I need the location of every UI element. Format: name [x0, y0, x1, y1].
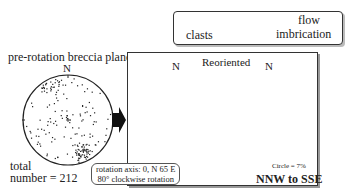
north-label-rose: N — [265, 60, 273, 72]
total-number: number = 212 — [10, 171, 77, 186]
number-label: number = — [10, 171, 59, 185]
transform-arrow-icon — [112, 107, 126, 133]
legend-clasts-label: clasts — [186, 28, 213, 43]
reoriented-title: Reoriented — [202, 56, 250, 68]
north-label-left: N — [63, 62, 71, 74]
rotation-angle-text: 80° clockwise rotation — [96, 174, 175, 184]
north-label-stereonet: N — [172, 60, 180, 72]
total-label: total — [10, 161, 31, 171]
pre-rotation-stereonet — [22, 75, 113, 165]
rotation-info-box: rotation axis: 0, N 65 E 80° clockwise r… — [91, 163, 180, 185]
result-label: NNW to SSE — [256, 172, 322, 187]
legend-flow-label: flow — [298, 13, 320, 28]
circle-scale-label: Circle = 7% — [272, 162, 306, 170]
legend-box: clasts flow imbrication — [173, 11, 343, 45]
rotation-axis-text: rotation axis: 0, N 65 E — [96, 164, 175, 174]
total-value: 212 — [59, 171, 77, 185]
legend-imbrication-label: imbrication — [276, 27, 331, 42]
